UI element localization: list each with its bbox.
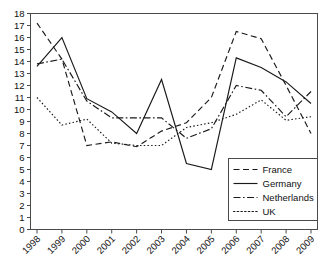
y-tick-label: 14 [14, 56, 25, 67]
y-tick-label: 2 [19, 200, 24, 211]
y-tick-label: 8 [19, 128, 24, 139]
series-group [37, 23, 311, 169]
x-tick-label: 2002 [119, 233, 142, 256]
y-tick-label: 12 [14, 80, 25, 91]
x-tick-label: 2007 [244, 233, 267, 256]
series-line-germany [37, 38, 311, 170]
y-tick-label: 11 [15, 92, 25, 103]
y-axis: 0123456789101112131415161718 [14, 8, 31, 235]
x-axis: 1998199920002001200220032004200520062007… [20, 230, 317, 256]
y-tick-label: 13 [14, 68, 25, 79]
x-tick-label: 2005 [194, 233, 217, 256]
y-tick-label: 3 [19, 188, 24, 199]
x-tick-label: 2008 [269, 233, 292, 256]
legend-label-germany: Germany [263, 178, 302, 189]
y-tick-label: 1 [19, 212, 24, 223]
x-tick-label: 2000 [70, 233, 93, 256]
y-tick-label: 10 [14, 104, 25, 115]
y-tick-label: 17 [14, 20, 25, 31]
legend-label-netherlands: Netherlands [263, 192, 314, 203]
legend-label-uk: UK [263, 206, 277, 217]
y-tick-label: 4 [19, 176, 24, 187]
y-tick-label: 6 [19, 152, 24, 163]
legend-label-france: France [263, 164, 293, 175]
x-tick-label: 2004 [169, 233, 192, 256]
series-line-netherlands [37, 59, 311, 138]
chart-canvas: 0123456789101112131415161718199819992000… [0, 0, 336, 276]
y-tick-label: 0 [19, 224, 24, 235]
y-tick-label: 9 [19, 116, 24, 127]
line-chart: 0123456789101112131415161718199819992000… [0, 0, 336, 276]
x-tick-label: 2009 [294, 233, 317, 256]
x-tick-label: 2006 [219, 233, 242, 256]
x-tick-label: 1999 [45, 233, 68, 256]
y-tick-label: 7 [19, 140, 24, 151]
y-tick-label: 16 [14, 32, 25, 43]
y-tick-label: 5 [19, 164, 24, 175]
legend: FranceGermanyNetherlandsUK [229, 159, 318, 221]
x-tick-label: 2001 [94, 233, 117, 256]
x-tick-label: 1998 [20, 233, 43, 256]
y-tick-label: 15 [14, 44, 25, 55]
x-tick-label: 2003 [144, 233, 167, 256]
y-tick-label: 18 [14, 8, 25, 19]
